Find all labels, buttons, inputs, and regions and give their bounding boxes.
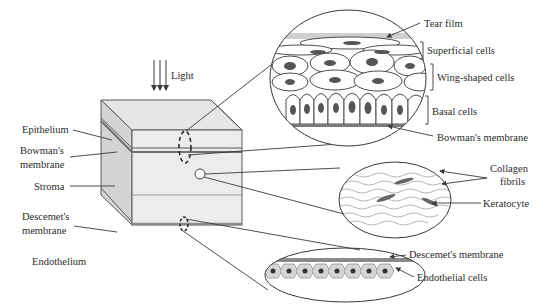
- label-bowman-2: membrane: [20, 159, 65, 170]
- label-tear-film: Tear film: [424, 18, 463, 29]
- label-basal-cells: Basal cells: [432, 106, 477, 117]
- label-collagen-2: fibrils: [500, 176, 525, 187]
- stroma-magnifier: [195, 169, 205, 179]
- label-collagen-1: Collagen: [490, 163, 529, 174]
- label-descemet-2: membrane: [22, 225, 67, 236]
- label-epithelium: Epithelium: [22, 124, 69, 135]
- label-bowman-membrane-detail: Bowman's membrane: [437, 132, 528, 143]
- light-label: Light: [171, 70, 194, 81]
- label-superficial-cells: Superficial cells: [427, 45, 495, 56]
- label-stroma: Stroma: [34, 181, 65, 192]
- label-wing-shaped-cells: Wing-shaped cells: [437, 72, 514, 83]
- label-endothelium: Endothelium: [32, 256, 86, 267]
- label-keratocyte: Keratocyte: [483, 198, 529, 209]
- cornea-diagram: Light Epithelium Bowman's me: [0, 0, 549, 307]
- endothelium-detail: [262, 248, 432, 302]
- cornea-block: [101, 100, 242, 225]
- label-endothelial-cells: Endothelial cells: [417, 272, 487, 283]
- stroma-detail: [338, 162, 452, 238]
- label-bowman-1: Bowman's: [20, 145, 64, 156]
- label-descemet-1: Descemet's: [22, 211, 69, 222]
- light-arrows-icon: [154, 60, 166, 90]
- label-descemet-membrane-detail: Descemet's membrane: [409, 249, 504, 260]
- stroma-label-lines: [432, 171, 487, 203]
- epithelium-detail: [268, 10, 436, 150]
